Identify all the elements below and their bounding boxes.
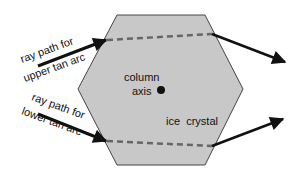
ice-crystal-label: ice crystal [166,115,218,127]
column-axis-label-line1: column [124,71,159,83]
ice-crystal-diagram: ray path for upper tan arc ray path for … [0,0,302,181]
column-axis-dot [157,86,165,94]
column-axis-label-line2: axis [132,85,152,97]
